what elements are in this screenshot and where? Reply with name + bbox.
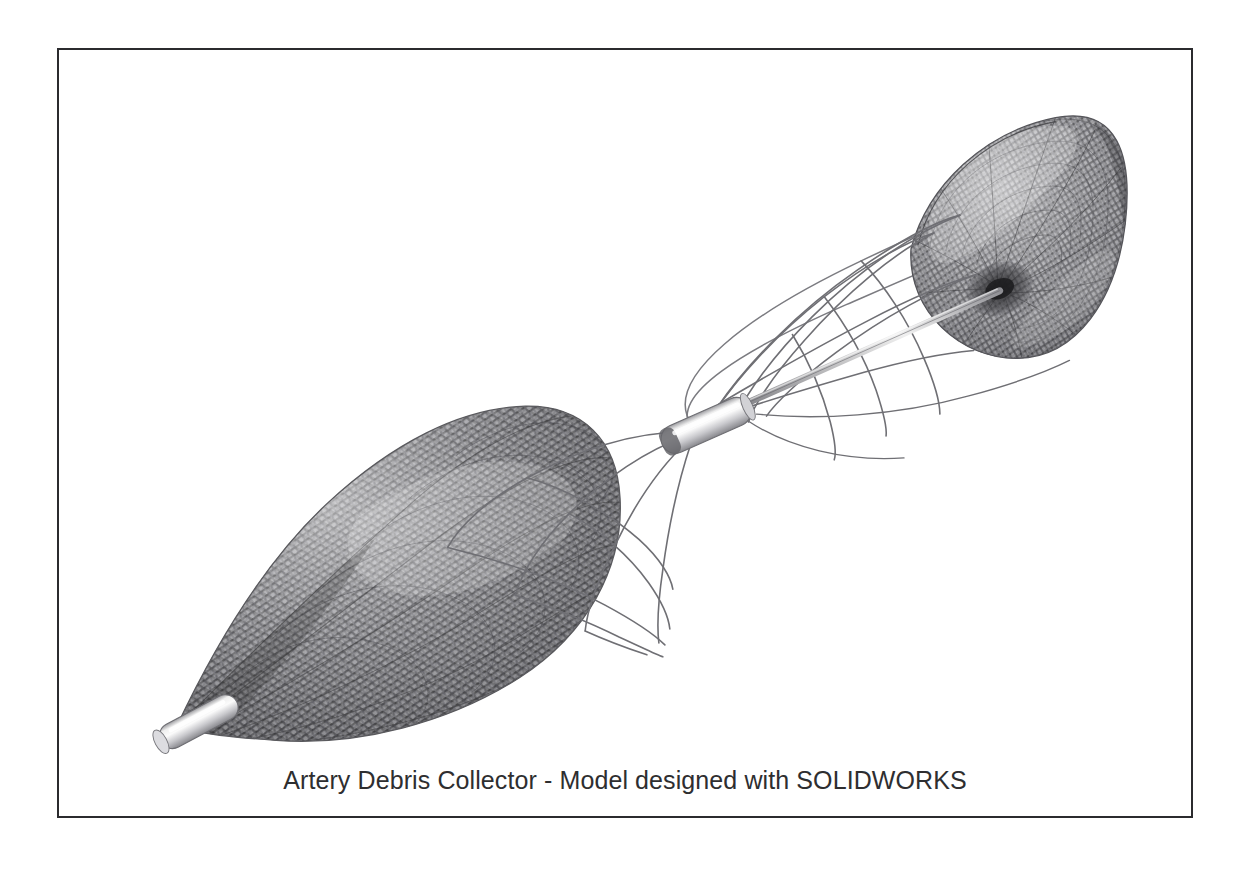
central-hub-sleeve <box>656 392 758 458</box>
proximal-mesh-funnel <box>896 100 1155 379</box>
artery-debris-collector-illustration <box>59 50 1191 816</box>
figure-page: Artery Debris Collector - Model designed… <box>0 0 1252 870</box>
figure-frame: Artery Debris Collector - Model designed… <box>57 48 1193 818</box>
figure-caption: Artery Debris Collector - Model designed… <box>59 766 1191 795</box>
